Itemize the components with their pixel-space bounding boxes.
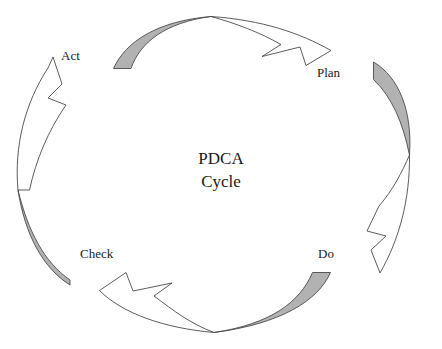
stage-label-check: Check	[80, 247, 113, 260]
arrow-act-to-plan-head	[211, 17, 331, 66]
arrow-do-to-check-tail	[214, 273, 331, 333]
arrow-do-to-check	[100, 273, 331, 333]
arrow-do-to-check-head	[100, 273, 215, 333]
arrow-check-to-act-tail	[18, 190, 70, 285]
center-title-line-1: PDCA	[0, 148, 442, 171]
arrow-act-to-plan-tail	[114, 17, 212, 69]
arrow-act-to-plan	[114, 17, 332, 69]
arrow-plan-to-do-tail	[374, 62, 410, 155]
diagram-center-title: PDCA Cycle	[0, 148, 442, 194]
center-title-line-2: Cycle	[0, 171, 442, 194]
pdca-cycle-diagram: Act Plan Do Check PDCA Cycle	[0, 0, 442, 349]
stage-label-do: Do	[318, 247, 334, 260]
stage-label-plan: Plan	[317, 66, 340, 79]
stage-label-act: Act	[61, 49, 80, 62]
